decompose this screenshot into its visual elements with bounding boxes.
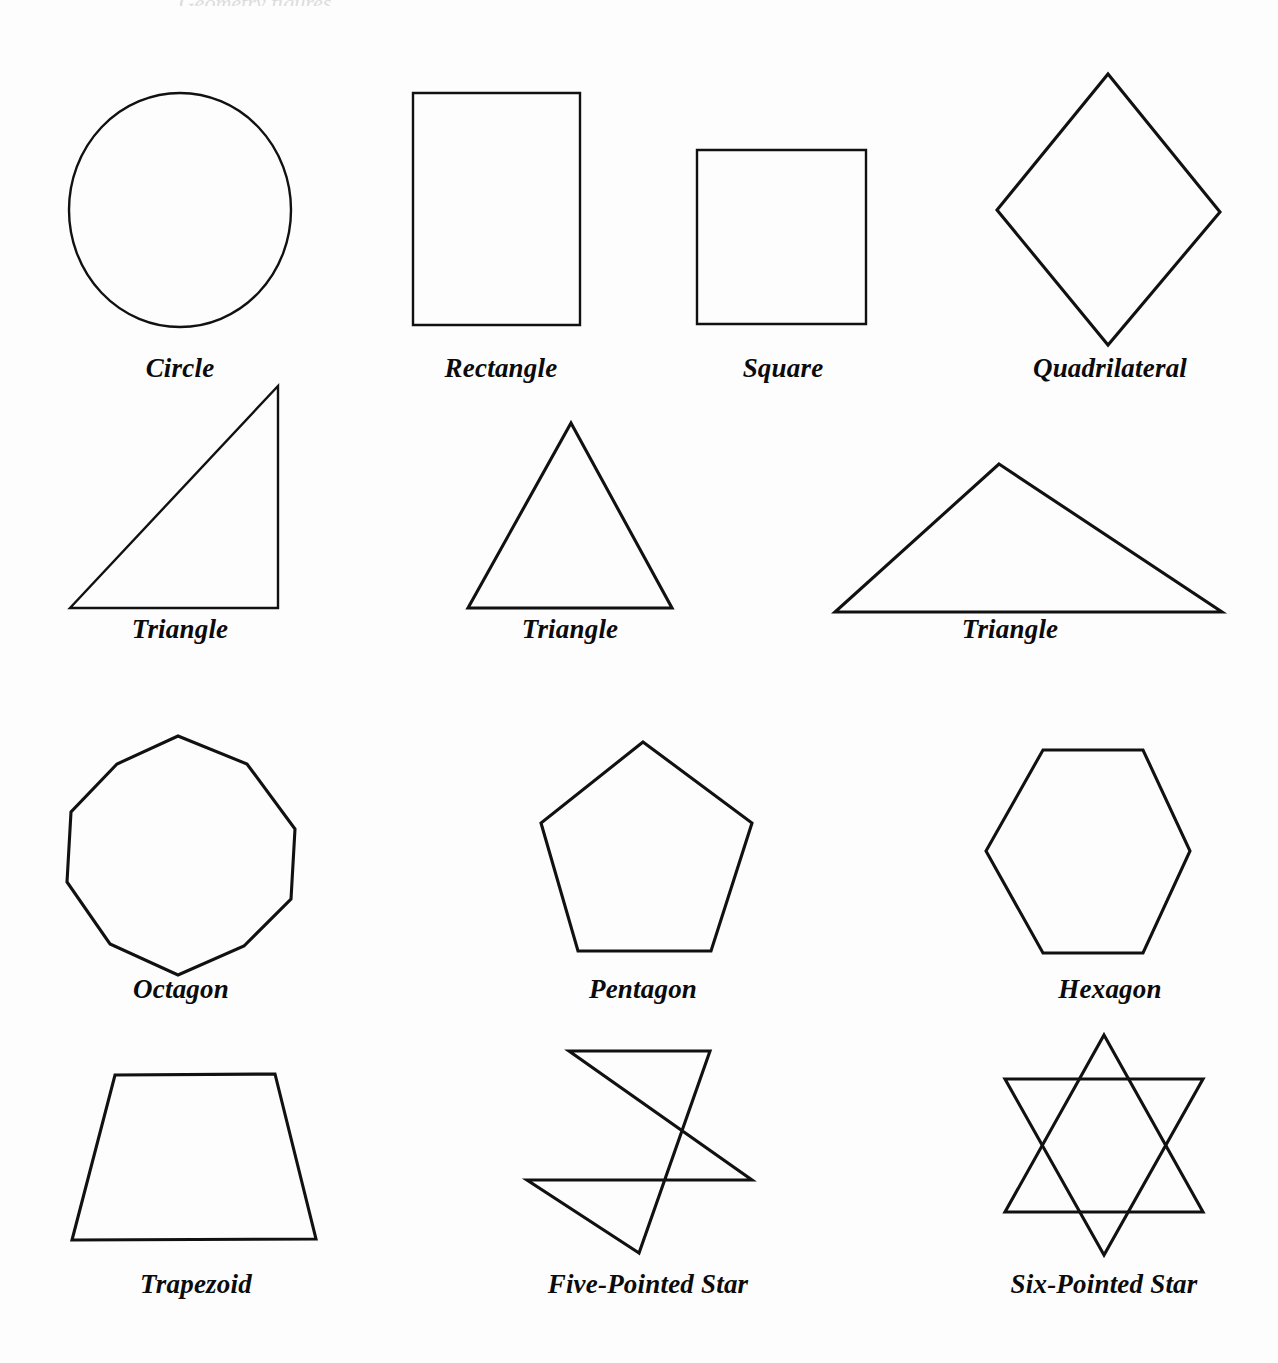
shape-hexagon — [986, 750, 1190, 953]
label-circle: Circle — [146, 355, 215, 382]
shape-circle — [69, 93, 291, 327]
label-pentagon: Pentagon — [589, 976, 697, 1003]
shape-square — [697, 150, 866, 324]
label-rectangle: Rectangle — [445, 355, 558, 382]
shape-quadrilateral — [997, 74, 1220, 345]
label-triangle-right: Triangle — [132, 616, 229, 643]
shape-rectangle — [413, 93, 580, 325]
shapes-canvas — [0, 0, 1278, 1363]
shape-pentagon — [541, 742, 752, 951]
figure-sheet: Geometry figures Circle Rectangle Square… — [0, 0, 1278, 1363]
shape-triangle-right — [70, 386, 278, 608]
label-triangle-equilateral: Triangle — [522, 616, 619, 643]
shape-six-pointed-star-triangle-down — [1005, 1079, 1203, 1255]
shape-trapezoid — [72, 1074, 316, 1240]
label-square: Square — [743, 355, 824, 382]
label-octagon: Octagon — [133, 976, 229, 1003]
shape-six-pointed-star-triangle-up — [1005, 1035, 1203, 1212]
shape-octagon — [67, 736, 295, 975]
shape-triangle-equilateral — [468, 423, 672, 608]
label-trapezoid: Trapezoid — [140, 1271, 252, 1298]
label-five-pointed-star: Five-Pointed Star — [548, 1271, 749, 1298]
shape-five-pointed-star — [527, 1051, 752, 1253]
label-triangle-obtuse: Triangle — [962, 616, 1059, 643]
label-six-pointed-star: Six-Pointed Star — [1011, 1271, 1198, 1298]
label-quadrilateral: Quadrilateral — [1033, 355, 1187, 382]
shape-triangle-obtuse — [835, 464, 1222, 612]
label-hexagon: Hexagon — [1058, 976, 1161, 1003]
